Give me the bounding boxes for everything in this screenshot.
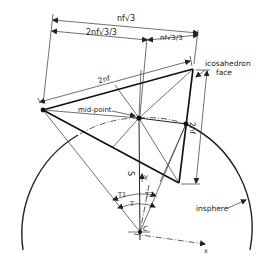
dimension-lines [38,14,210,184]
angle-t2-label: T2 [144,191,153,199]
icosahedron-face-label-1: icosahedron [205,59,251,68]
icosahedron-face-label-2: face [216,68,232,77]
insphere-circle [22,118,252,250]
center-label: C [143,225,148,233]
angle-t1-label: T1 [117,191,126,199]
insphere-label: insphere [196,204,229,213]
icosahedron-face-triangle [43,69,193,183]
edge-right-label: 2nf [188,122,197,135]
y-axis-label: Y [143,174,148,182]
dim-total-label: nf√3 [117,14,135,23]
dim-right-label: nf√3/3 [160,34,183,42]
left-vertex-dot [41,108,46,113]
right-edge-dot [184,122,189,127]
dim-left-label: 2nf√3/3 [86,28,117,37]
internal-lines [43,69,205,244]
icosahedron-diagram: nf√3 2nf√3/3 nf√3/3 2nf 2nf icosahedron … [0,0,275,269]
center-dot [138,230,142,234]
mid-point-dot [136,115,141,120]
radius-label: S [126,171,135,176]
mid-point-label: mid-point [78,106,112,114]
angle-t-label: T [129,200,134,208]
x-axis-label: x [204,247,208,255]
edge-top-label: 2nf [97,74,111,86]
